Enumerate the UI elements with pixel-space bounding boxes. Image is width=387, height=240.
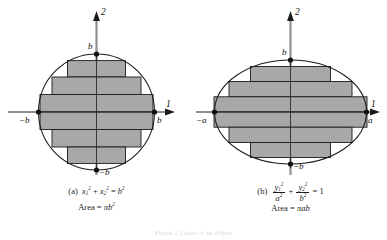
ellipse-plot: 2 1 b −b a −a [194,0,387,182]
eq-b-plus: + [289,186,294,196]
circle-plot: 2 1 b −b b −b [0,0,193,182]
intercept-dot-left [36,109,41,114]
vertical-axis-arrowhead [287,11,294,21]
area-b-label: Area [271,203,288,213]
tick-label-top: b [282,48,287,57]
horizontal-axis-label: 1 [166,100,171,110]
fraction-first: y12 a2 [273,182,286,203]
eq-a-rhs-exp: 2 [122,185,125,191]
area-b-equals: = [290,203,295,213]
tick-label-bottom: −b [99,168,110,177]
eq-b-den-exp1: 2 [280,192,283,198]
horizontal-axis-label: 1 [371,100,376,110]
eq-b-num-exp1: 2 [281,181,284,187]
eq-b-rhs: 1 [319,186,323,196]
tick-label-bottom: −b [293,162,304,171]
panel-b-tag: (b) [257,186,267,196]
eq-b-den-exp2: 2 [304,192,307,198]
eq-a-exp1: 2 [88,185,91,191]
vertical-axis-label: 2 [101,8,106,18]
intercept-dot-top [288,57,293,62]
intercept-dot-left [212,109,217,114]
eq-a-plus: + [93,186,98,196]
panel-b-area: Area = πab [194,203,387,214]
ellipse-diagram-svg [194,0,387,182]
tick-label-right: a [368,116,373,125]
panel-a-equation: (a) x12 + x22 = b2 [0,185,193,197]
panel-b-equation: (b) y12 a2 + y22 b2 = 1 [194,182,387,203]
vertical-axis-arrowhead [93,11,100,21]
panel-ellipse: 2 1 b −b a −a (b) y12 a2 + y22 b2 = 1 Ar… [194,0,387,240]
tick-label-top: b [88,42,93,51]
eq-a-equals: = [111,186,116,196]
panel-a-area: Area = πb2 [0,201,193,213]
horizontal-axis-arrowhead [165,109,175,116]
vertical-axis-label: 2 [295,8,300,18]
area-a-equals: = [97,202,102,212]
area-a-label: Area [78,202,95,212]
tick-label-right: b [157,116,162,125]
tick-label-left: −b [19,116,30,125]
intercept-dot-right [152,109,157,114]
bottom-partial-caption: Figure 2.1 Area of an ellipse [0,230,387,236]
intercept-dot-top [94,51,99,56]
area-a-exp: 2 [112,201,115,207]
eq-a-exp2: 2 [106,185,109,191]
panel-circle: 2 1 b −b b −b (a) x12 + x22 = b2 Area = … [0,0,193,240]
eq-b-num-exp2: 2 [305,181,308,187]
panel-a-tag: (a) [68,186,77,196]
eq-b-equals: = [312,186,317,196]
tick-label-left: −a [196,116,207,125]
area-b-var-b: b [305,203,309,213]
intercept-dot-right [364,109,369,114]
fraction-second: y22 b2 [296,182,309,203]
circle-diagram-svg [0,0,193,182]
